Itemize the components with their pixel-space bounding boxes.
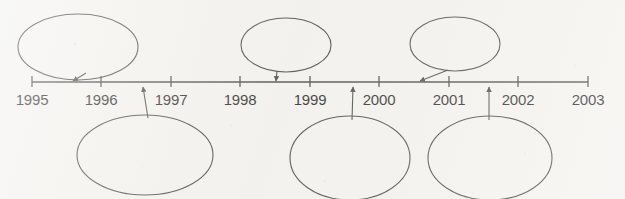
callout-leader-2 [276, 71, 277, 81]
year-label-1997: 1997 [155, 91, 188, 108]
callout-leader-4 [143, 87, 148, 118]
callout-leader-3 [420, 70, 448, 81]
year-label-2001: 2001 [433, 91, 466, 108]
year-label-1999: 1999 [294, 91, 327, 108]
callout-text-6[interactable] [428, 116, 552, 199]
year-label-2002: 2002 [502, 91, 535, 108]
callout-text-3[interactable] [410, 17, 500, 71]
callout-text-1[interactable] [18, 14, 138, 80]
callout-text-5[interactable] [290, 116, 410, 199]
timeline-diagram-canvas: 1995 1996 1997 1998 1999 2000 2001 2002 … [0, 0, 625, 199]
callout-text-4[interactable] [77, 115, 213, 195]
year-label-1995: 1995 [16, 91, 49, 108]
year-label-1998: 1998 [224, 91, 257, 108]
year-label-2003: 2003 [572, 91, 605, 108]
year-label-1996: 1996 [85, 91, 118, 108]
callout-text-2[interactable] [241, 18, 331, 72]
year-label-2000: 2000 [363, 91, 396, 108]
